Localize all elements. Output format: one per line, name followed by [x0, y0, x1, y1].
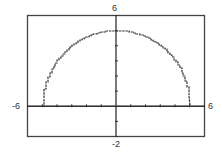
xmax-label: 6: [208, 101, 213, 111]
ymax-label: 6: [112, 3, 117, 13]
xmin-label: -6: [12, 101, 20, 111]
ymin-label: -2: [112, 139, 120, 149]
graph-window: [0, 0, 222, 159]
